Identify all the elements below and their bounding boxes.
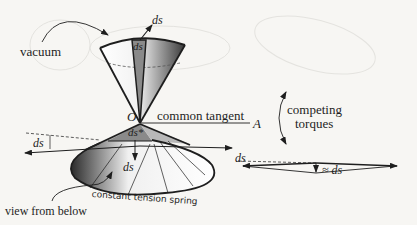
label-common-tangent: common tangent (157, 109, 244, 122)
label-ds-top-strip: ds (133, 41, 143, 52)
vacuum-arrow (42, 22, 108, 42)
label-ds-down: ds (123, 161, 134, 173)
label-ds-star: ds* (128, 127, 143, 138)
label-approx-ds: ≈ ds (322, 164, 342, 176)
ghost-bleed-through (30, 5, 381, 85)
right-diamond (238, 161, 397, 173)
figure-canvas: vacuum ds ds O common tangent A competin… (0, 0, 417, 225)
label-view-from-below: view from below (5, 205, 87, 217)
competing-torques-arrow (279, 92, 286, 144)
label-competing: competing (287, 103, 342, 116)
label-ds-right: ds (235, 152, 246, 164)
label-origin-o: O (127, 110, 136, 123)
label-ds-top-arrow: ds (152, 14, 163, 26)
label-torques: torques (295, 117, 333, 130)
label-point-a: A (253, 117, 261, 130)
label-ds-left: ds (33, 137, 44, 149)
label-vacuum: vacuum (20, 45, 61, 58)
